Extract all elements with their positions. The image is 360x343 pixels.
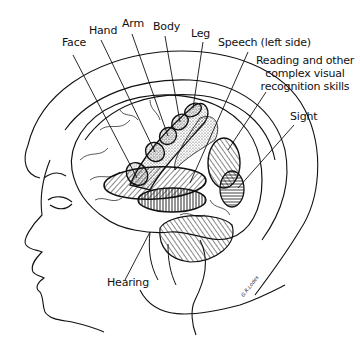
label-hand: Hand: [89, 24, 117, 37]
label-reading-line3: recognition skills: [255, 80, 355, 93]
label-speech: Speech (left side): [218, 36, 311, 49]
label-reading-line2: complex visual: [255, 67, 355, 80]
label-sight: Sight: [290, 110, 317, 123]
label-face: Face: [62, 36, 86, 49]
label-reading-line1: Reading and other: [255, 54, 355, 67]
label-leg: Leg: [191, 27, 210, 40]
label-hearing: Hearing: [107, 276, 149, 289]
label-body: Body: [153, 20, 180, 33]
head-brain-illustration: [0, 0, 360, 343]
label-arm: Arm: [122, 17, 144, 30]
hearing-area: [138, 188, 206, 212]
label-reading: Reading and other complex visual recogni…: [255, 54, 355, 93]
sight-area: [220, 171, 244, 207]
